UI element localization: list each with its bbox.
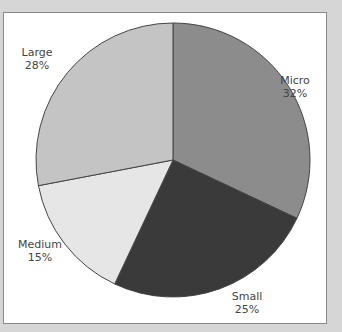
- label-large-name: Large: [12, 46, 62, 59]
- label-small-pct: 25%: [222, 303, 272, 316]
- label-micro-name: Micro: [270, 74, 320, 87]
- label-large-pct: 28%: [12, 59, 62, 72]
- label-small: Small 25%: [222, 290, 272, 316]
- label-medium: Medium 15%: [10, 238, 70, 264]
- label-medium-pct: 15%: [10, 251, 70, 264]
- label-micro-pct: 32%: [270, 87, 320, 100]
- label-large: Large 28%: [12, 46, 62, 72]
- label-small-name: Small: [222, 290, 272, 303]
- label-medium-name: Medium: [10, 238, 70, 251]
- label-micro: Micro 32%: [270, 74, 320, 100]
